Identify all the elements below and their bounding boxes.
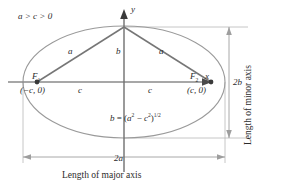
triangle-label-center-b: b [116,47,121,56]
ellipse-diagram: a > c > 0 y x a b a F1 F2 (−c, 0) (c, 0)… [0,0,281,190]
triangle-label-right-a: a [159,47,164,56]
caption-minor-axis: Length of minor axis [243,65,253,145]
triangle-label-left-a: a [68,47,73,56]
formula-b-expression: b = (a2 − c2)1/2 [110,113,161,123]
focus-point-f2 [209,80,214,85]
focus-label-f2-index: 2 [196,77,199,83]
dimension-value-minor: 2b [233,78,242,87]
focus-label-f1-index: 1 [38,77,41,83]
focus-coordinate-f1: (−c, 0) [20,86,45,95]
dimension-value-major: 2a [114,154,123,163]
formula-minus: − [134,113,144,123]
condition-label: a > c > 0 [18,12,52,21]
formula-equals: = ( [115,113,128,123]
focus-label-f2: F2 [190,72,198,83]
y-axis-arrow [120,9,128,19]
dimension-arrow-minor-bottom [226,130,232,138]
distance-label-c-left: c [78,86,82,95]
focus-label-f1: F1 [32,72,40,83]
caption-major-axis: Length of major axis [62,171,141,181]
dimension-arrow-major-left [23,154,31,160]
dimension-arrow-major-right [217,154,225,160]
triangle-side-left [37,27,124,82]
dimension-arrow-minor-top [226,27,232,35]
distance-label-c-right: c [148,86,152,95]
x-axis-label: x [205,72,209,81]
ellipse-figure-canvas [0,0,281,190]
formula-power: 1/2 [154,112,161,118]
focus-coordinate-f2: (c, 0) [187,86,206,95]
y-axis-label: y [131,5,135,14]
